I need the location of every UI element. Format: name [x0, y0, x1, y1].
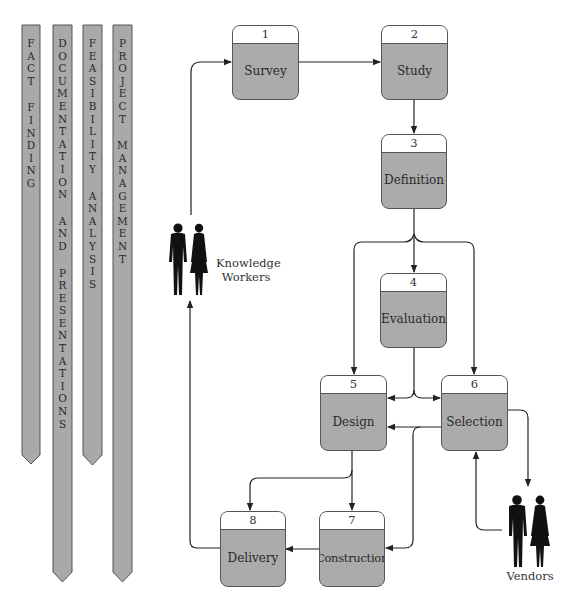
activity-letter: R: [53, 279, 72, 292]
activity-letter: A: [53, 355, 72, 368]
diagram-canvas: FACTFINDING DOCUMENTATIONANDPRESENTATION…: [0, 0, 566, 604]
phase-construction: 7 Construction: [319, 511, 385, 587]
activity-letter: T: [53, 125, 72, 138]
activity-letter: [22, 87, 40, 101]
activity-letter: N: [113, 240, 132, 253]
activity-letter: A: [53, 215, 72, 228]
phase-survey: 1 Survey: [232, 25, 299, 100]
activity-letter: U: [53, 75, 72, 88]
activity-letter: T: [113, 113, 132, 126]
arrow-selection-to-vendors: [508, 410, 528, 486]
activity-letter: G: [113, 190, 132, 203]
activity-letter: [113, 125, 132, 139]
activity-letter: E: [113, 227, 132, 240]
phase-number: 4: [381, 274, 446, 292]
activity-letter: O: [53, 392, 72, 405]
activity-letter: S: [83, 75, 102, 88]
activity-letter: N: [53, 329, 72, 342]
vendors-label: Vendors: [502, 569, 558, 583]
activity-letter: B: [83, 100, 102, 113]
activity-letter: N: [83, 202, 102, 215]
activity-letter: [53, 201, 72, 215]
activity-project-management-text: PROJECTMANAGEMENT: [113, 37, 132, 265]
activity-letter: P: [53, 267, 72, 280]
activity-letter: T: [53, 367, 72, 380]
activity-letter: C: [53, 62, 72, 75]
activity-letter: T: [83, 150, 102, 163]
arrow-evaluation-to-design: [388, 348, 414, 398]
activity-letter: A: [113, 177, 132, 190]
activity-letter: S: [53, 304, 72, 317]
activity-letter: [83, 176, 102, 190]
phase-label: Selection: [442, 393, 507, 450]
activity-letter: T: [113, 253, 132, 266]
activity-letter: L: [83, 125, 102, 138]
activity-letter: O: [53, 176, 72, 189]
activity-letter: [53, 253, 72, 267]
phase-number: 8: [221, 512, 285, 530]
activity-letter: Y: [83, 163, 102, 176]
phase-definition: 3 Definition: [381, 134, 447, 209]
phase-label: Design: [321, 393, 386, 450]
activity-letter: N: [113, 164, 132, 177]
activity-letter: A: [83, 215, 102, 228]
activity-letter: M: [113, 139, 132, 152]
activity-letter: O: [53, 50, 72, 63]
activity-letter: I: [83, 138, 102, 151]
activity-feasibility-text: FEASIBILITYANALYSIS: [83, 37, 102, 290]
activity-letter: C: [22, 62, 40, 75]
phase-delivery: 8 Delivery: [220, 511, 286, 587]
activity-letter: A: [83, 190, 102, 203]
activity-letter: N: [53, 405, 72, 418]
phase-label: Survey: [233, 43, 298, 99]
activity-letter: N: [53, 227, 72, 240]
knowledge-workers-label-line1: Knowledge: [216, 256, 276, 270]
activity-letter: C: [113, 100, 132, 113]
phase-number: 5: [321, 376, 386, 394]
activity-letter: P: [113, 37, 132, 50]
arrow-delivery-to-workers: [190, 301, 220, 548]
phase-selection: 6 Selection: [441, 375, 508, 451]
activity-letter: Y: [83, 240, 102, 253]
activity-letter: T: [53, 150, 72, 163]
activity-letter: J: [113, 75, 132, 88]
activity-letter: D: [53, 37, 72, 50]
activity-letter: E: [113, 202, 132, 215]
activity-letter: A: [22, 50, 40, 63]
activity-letter: E: [53, 292, 72, 305]
activity-letter: N: [22, 127, 40, 140]
activity-letter: F: [22, 37, 40, 50]
vendors-icon: [509, 495, 550, 567]
activity-letter: R: [113, 50, 132, 63]
activity-letter: A: [53, 138, 72, 151]
activity-letter: O: [113, 62, 132, 75]
activity-letter: M: [53, 87, 72, 100]
activity-letter: S: [53, 418, 72, 431]
activity-letter: L: [83, 227, 102, 240]
activity-letter: N: [53, 113, 72, 126]
phase-number: 2: [382, 26, 447, 44]
activity-letter: E: [53, 317, 72, 330]
activity-letter: I: [83, 87, 102, 100]
arrow-vendors-to-selection: [476, 452, 502, 530]
arrow-design-to-delivery: [250, 470, 352, 510]
phase-study: 2 Study: [381, 25, 448, 100]
phase-label: Definition: [382, 152, 446, 208]
phase-number: 1: [233, 26, 298, 44]
arrow-selection-to-construction: [386, 427, 420, 548]
activity-feasibility-analysis: FEASIBILITYANALYSIS: [83, 25, 102, 455]
activity-letter: F: [22, 101, 40, 114]
phase-label: Delivery: [221, 529, 285, 586]
activity-letter: A: [113, 152, 132, 165]
phase-number: 7: [320, 512, 384, 530]
arrow-evaluation-to-selection: [414, 390, 440, 398]
activity-letter: I: [53, 163, 72, 176]
activity-letter: I: [83, 113, 102, 126]
activity-letter: E: [83, 50, 102, 63]
activity-letter: I: [22, 152, 40, 165]
knowledge-workers-icon: [169, 223, 208, 295]
activity-letter: I: [53, 380, 72, 393]
activity-letter: F: [83, 37, 102, 50]
activity-letter: G: [22, 177, 40, 190]
phase-design: 5 Design: [320, 375, 387, 451]
